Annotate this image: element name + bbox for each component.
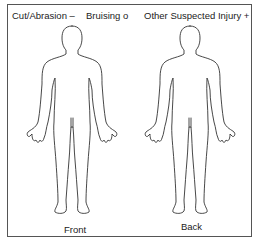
body-outline-back-icon[interactable] <box>140 22 240 222</box>
body-outline-front-icon[interactable] <box>22 22 122 222</box>
legend-bruising: Bruising o <box>86 10 128 21</box>
caption-back: Back <box>181 221 202 232</box>
caption-front: Front <box>64 224 86 235</box>
legend-other-injury: Other Suspected Injury + <box>144 10 249 21</box>
legend-cut-abrasion: Cut/Abrasion – <box>12 10 75 21</box>
